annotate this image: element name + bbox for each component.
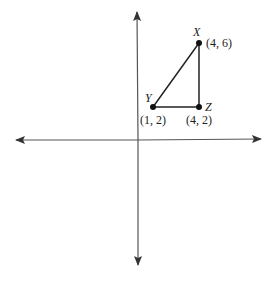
point-z-name-label: Z: [205, 100, 212, 114]
y-axis: [137, 12, 138, 140]
point-y-name-label: Y: [145, 91, 153, 105]
point-y-coord-label: (1, 2): [140, 113, 166, 127]
point-x-name-label: X: [192, 25, 201, 39]
x-axis-positive: [137, 139, 261, 140]
segment-xy: [153, 43, 199, 107]
point-z-coord-label: (4, 2): [186, 113, 212, 127]
point-x-coord-label: (4, 6): [206, 36, 232, 50]
point-z: [196, 104, 202, 110]
coordinate-plane: X Y Z (4, 6) (1, 2) (4, 2): [0, 0, 273, 283]
point-x: [196, 40, 202, 46]
